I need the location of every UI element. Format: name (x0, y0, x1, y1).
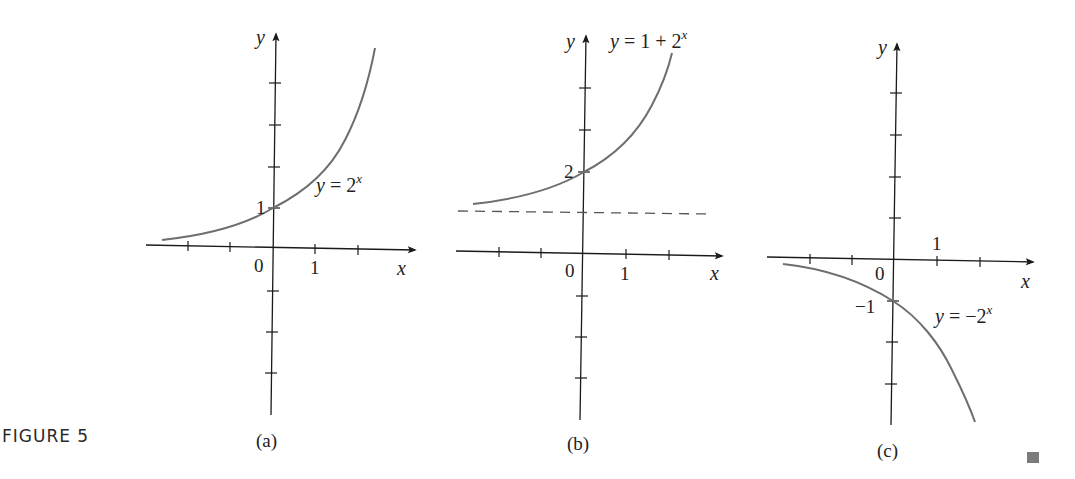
panel-label: (b) (567, 433, 589, 455)
panel-b: y x 0 1 2 y = 1 + 2x (b) (456, 27, 722, 455)
y-axis (891, 44, 897, 425)
x-tick-label: 1 (310, 257, 320, 278)
y-axis (580, 36, 586, 420)
origin-label: 0 (565, 260, 575, 281)
figure-5: y x 0 1 1 y = 2x (a) y x 0 1 2 y (0, 0, 1075, 479)
panel-c: y x 0 1 −1 y = −2x (c) (767, 36, 1033, 462)
x-axis (456, 251, 722, 256)
x-tick-label: 1 (932, 233, 942, 254)
x-axis-label: x (709, 262, 719, 284)
x-axis (146, 245, 415, 250)
origin-label: 0 (254, 255, 264, 276)
curve-label: y = 2x (314, 171, 362, 197)
asymptote-dashed-line (458, 211, 712, 214)
panel-label: (c) (877, 440, 898, 462)
end-of-example-square-icon (1027, 452, 1039, 463)
origin-label: 0 (875, 263, 885, 284)
y-axis-label: y (564, 30, 575, 53)
curve-label: y = 1 + 2x (608, 27, 687, 53)
y-tick-label: −1 (855, 296, 875, 317)
y-tick-label: 1 (256, 197, 266, 218)
x-axis (767, 257, 1033, 262)
y-axis (271, 34, 276, 415)
x-axis-label: x (1020, 270, 1030, 292)
curve-2-pow-x (162, 48, 375, 240)
x-tick-label: 1 (620, 263, 630, 284)
y-tick-label: 2 (564, 161, 574, 182)
panel-label: (a) (256, 430, 277, 452)
y-axis-label: y (876, 36, 887, 59)
figure-caption: FIGURE 5 (2, 426, 89, 446)
panel-a: y x 0 1 1 y = 2x (a) (146, 26, 415, 452)
x-axis-label: x (396, 257, 406, 279)
y-axis-label: y (254, 26, 265, 49)
curve-neg-2-pow-x (783, 264, 975, 422)
curve-label: y = −2x (933, 302, 992, 328)
